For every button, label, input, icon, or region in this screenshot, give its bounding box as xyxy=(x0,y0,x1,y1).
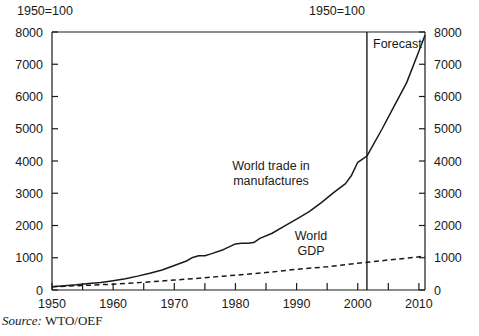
source-value: WTO/OEF xyxy=(45,313,103,328)
y-tick-label-right: 6000 xyxy=(434,90,462,104)
x-tick-label: 2010 xyxy=(405,297,433,311)
x-tick-label: 1990 xyxy=(283,297,311,311)
y-tick-label-right: 7000 xyxy=(434,58,462,72)
y-tick-label-right: 3000 xyxy=(434,187,462,201)
y-tick-label-right: 4000 xyxy=(434,155,462,169)
y-tick-label-right: 8000 xyxy=(434,26,462,40)
world-trade-label-line2: manufactures xyxy=(233,174,309,188)
figure-container: 1950=100 1950=100 0100020003000400050006… xyxy=(0,0,479,336)
x-tick-label: 1980 xyxy=(222,297,250,311)
y-tick-labels-left: 010002000300040005000600070008000 xyxy=(15,26,43,298)
y-tick-label-left: 0 xyxy=(36,284,43,298)
x-tick-label: 1970 xyxy=(160,297,188,311)
y-tick-label-left: 1000 xyxy=(15,251,43,265)
y-tick-label-left: 8000 xyxy=(15,26,43,40)
y-tick-label-right: 0 xyxy=(434,284,441,298)
source-note: Source: WTO/OEF xyxy=(2,313,103,329)
y-ticks-left xyxy=(52,32,58,290)
series-line-world-gdp xyxy=(52,256,425,287)
line-chart: 010002000300040005000600070008000 010002… xyxy=(0,0,479,336)
x-tick-label: 1950 xyxy=(38,297,66,311)
forecast-label: Forecast xyxy=(373,37,422,51)
y-tick-label-right: 2000 xyxy=(434,219,462,233)
x-tick-labels: 1950196019701980199020002010 xyxy=(38,297,433,311)
y-tick-label-left: 7000 xyxy=(15,58,43,72)
source-prefix: Source: xyxy=(2,313,42,328)
y-tick-label-left: 4000 xyxy=(15,155,43,169)
y-tick-labels-right: 010002000300040005000600070008000 xyxy=(434,26,462,298)
y-tick-label-right: 5000 xyxy=(434,122,462,136)
y-tick-label-left: 2000 xyxy=(15,219,43,233)
world-gdp-label-line1: World xyxy=(295,229,327,243)
world-gdp-label-line2: GDP xyxy=(297,244,324,258)
x-tick-label: 1960 xyxy=(99,297,127,311)
y-tick-label-left: 5000 xyxy=(15,122,43,136)
y-tick-label-right: 1000 xyxy=(434,251,462,265)
y-ticks-right xyxy=(419,32,425,290)
y-tick-label-left: 3000 xyxy=(15,187,43,201)
world-trade-label-line1: World trade in xyxy=(232,159,310,173)
x-tick-label: 2000 xyxy=(344,297,372,311)
y-tick-label-left: 6000 xyxy=(15,90,43,104)
